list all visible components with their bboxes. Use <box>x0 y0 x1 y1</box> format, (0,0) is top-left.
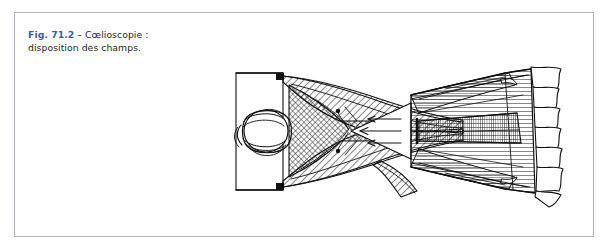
coelioscopie-illustration <box>205 51 587 211</box>
figure-caption-dash: – <box>74 29 85 40</box>
figure-number-label: Fig. 71.2 <box>28 29 74 40</box>
illustration-svg <box>205 51 587 211</box>
drape-ruffled-edge <box>531 67 563 207</box>
figure-panel: Fig. 71.2 – Cœlioscopie : disposition de… <box>14 12 594 237</box>
figure-caption: Fig. 71.2 – Cœlioscopie : disposition de… <box>28 29 188 54</box>
